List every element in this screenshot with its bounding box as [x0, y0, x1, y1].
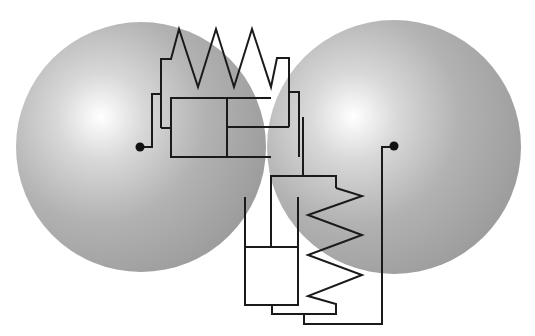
left-center-node	[136, 143, 145, 152]
contact-model-diagram	[0, 0, 535, 336]
right-center-node	[390, 142, 399, 151]
